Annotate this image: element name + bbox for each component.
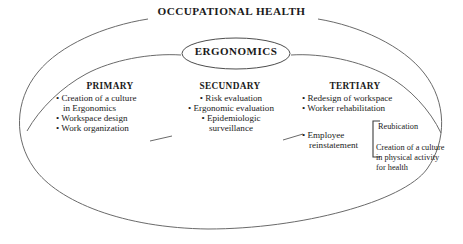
employee-reinstatement-line1: Employee — [307, 130, 344, 140]
bracket-item-physical-activity: Creation of a culture in physical activi… — [376, 143, 462, 173]
column-heading-secundary: SECUNDARY — [175, 81, 285, 92]
diagram-title: OCCUPATIONAL HEALTH — [0, 5, 463, 18]
bracket-item-reubication: Reubication — [378, 122, 460, 132]
bullet-glyph: • — [302, 93, 305, 103]
bullet-glyph: • — [302, 130, 305, 140]
bracket-item-line3: for health — [376, 163, 462, 173]
list-item-text: Ergonomic evaluation — [194, 103, 274, 113]
list-item-text: Epidemiologic — [207, 113, 261, 123]
bullet-glyph: • — [200, 93, 203, 103]
list-item: • Epidemiologic — [172, 113, 290, 123]
connector-primary-secundary — [150, 136, 172, 141]
bracket-item-line1: Creation of a culture — [376, 143, 462, 153]
list-item-text: Risk evaluation — [205, 93, 262, 103]
list-item-text: Work organization — [61, 123, 129, 133]
bullet-glyph: • — [56, 93, 59, 103]
list-item-continuation: in Ergonomics — [56, 103, 176, 113]
list-item-continuation: surveillance — [172, 123, 290, 133]
column-heading-tertiary: TERTIARY — [305, 81, 405, 92]
employee-reinstatement-line2: reinstatement — [302, 140, 370, 150]
bullet-glyph: • — [201, 113, 204, 123]
list-item-text: Worker rehabilitation — [307, 103, 385, 113]
list-item: • Creation of a culture — [56, 93, 176, 103]
employee-reinstatement-item: • Employee reinstatement — [302, 130, 370, 150]
ergonomics-label: ERGONOMICS — [182, 45, 290, 58]
bracket-item-line2: in physical activity — [376, 153, 462, 163]
bullet-glyph: • — [56, 113, 59, 123]
column-list-primary: • Creation of a culture in Ergonomics • … — [56, 93, 176, 133]
list-item-text: Creation of a culture — [61, 93, 136, 103]
list-item: • Redesign of workspace — [302, 93, 422, 103]
list-item: • Worker rehabilitation — [302, 103, 422, 113]
column-list-secundary: • Risk evaluation • Ergonomic evaluation… — [172, 93, 290, 133]
connector-secundary-tertiary — [283, 134, 303, 140]
column-list-tertiary: • Redesign of workspace • Worker rehabil… — [302, 93, 422, 113]
list-item: • Ergonomic evaluation — [172, 103, 290, 113]
bullet-glyph: • — [56, 123, 59, 133]
bullet-glyph: • — [188, 103, 191, 113]
list-item: • Risk evaluation — [172, 93, 290, 103]
list-item: • Workspace design — [56, 113, 176, 123]
list-item: • Work organization — [56, 123, 176, 133]
column-heading-primary: PRIMARY — [60, 81, 160, 92]
diagram-canvas: OCCUPATIONAL HEALTH ERGONOMICS PRIMARY S… — [0, 0, 463, 244]
list-item-text: Workspace design — [61, 113, 127, 123]
bullet-glyph: • — [302, 103, 305, 113]
list-item-text: Redesign of workspace — [307, 93, 392, 103]
